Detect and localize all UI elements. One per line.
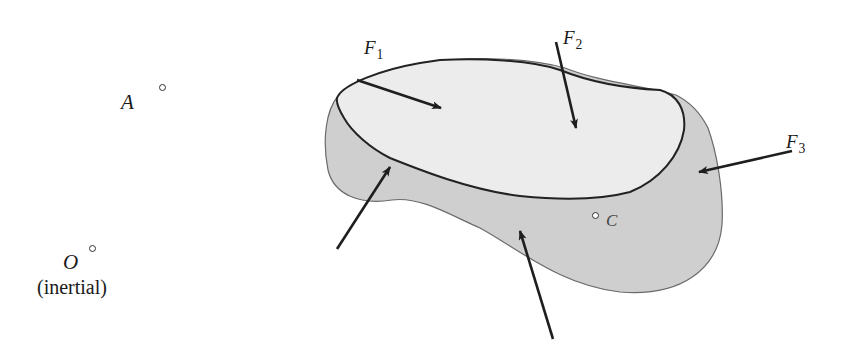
center-of-mass-label: C: [606, 212, 617, 229]
force-f3-subscript: 3: [799, 141, 806, 156]
point-o-label: O: [63, 252, 78, 273]
point-o-marker: [89, 245, 96, 252]
force-f2-subscript: 2: [576, 37, 583, 52]
force-f1-subscript: 1: [377, 47, 384, 62]
center-of-mass-marker: [592, 212, 599, 219]
force-f1-symbol: F: [364, 37, 376, 58]
force-f1-label: F1: [364, 38, 383, 61]
force-f2-label: F2: [563, 28, 582, 51]
force-f3-label: F3: [786, 132, 805, 155]
point-a-label: A: [121, 92, 134, 113]
force-f2-symbol: F: [563, 27, 575, 48]
point-a-marker: [159, 84, 166, 91]
force-f3-symbol: F: [786, 131, 798, 152]
rigid-body-diagram: [0, 0, 843, 355]
inertial-note: (inertial): [37, 277, 107, 297]
